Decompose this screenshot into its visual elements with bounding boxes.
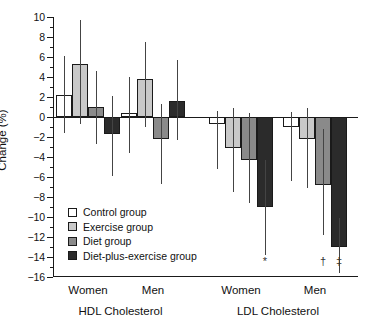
y-axis-tick-major [47,77,53,78]
legend-item: Diet-plus-exercise group [68,249,197,264]
y-axis-tick-major [47,117,53,118]
legend-swatch-icon [68,222,77,231]
error-bar [265,160,266,255]
legend-swatch-icon [68,251,77,260]
error-bar [249,113,250,203]
error-bar [112,96,113,176]
y-axis-tick-major [47,17,53,18]
error-bar [161,104,162,184]
significance-marker: * [263,255,267,267]
legend-item: Control group [68,205,197,220]
error-bar [80,20,81,124]
y-axis-tick-label: −4 [33,151,45,163]
y-axis-tick-label: −10 [27,211,45,223]
y-axis-tick-major [47,197,53,198]
legend-swatch-icon [68,208,77,217]
y-axis-tick-major [47,237,53,238]
error-bar [323,129,324,235]
legend-item: Exercise group [68,220,197,235]
legend-label: Diet-plus-exercise group [83,251,197,262]
y-axis-tick-label: 0 [39,111,45,123]
y-axis-tick-major [47,277,53,278]
y-axis-tick-major [47,217,53,218]
y-axis-tick-major [47,97,53,98]
legend-swatch-icon [68,237,77,246]
y-axis-tick-minor [50,267,54,268]
error-bar [291,112,292,181]
y-axis-tick-minor [50,47,54,48]
y-axis-tick-minor [50,187,54,188]
y-axis-tick-label: −2 [33,131,45,143]
y-axis-tick-label: −16 [27,271,45,283]
y-axis-tick-label: −14 [27,251,45,263]
x-axis-group-label: Men [142,284,164,296]
y-axis-tick-minor [50,107,54,108]
y-axis-tick-minor [50,247,54,248]
error-bar [217,111,218,169]
y-axis-tick-label: −8 [33,191,45,203]
x-axis-panel-label: LDL Cholesterol [237,305,319,317]
y-axis-tick-major [47,37,53,38]
legend-item: Diet group [68,234,197,249]
y-axis-tick-label: 6 [39,51,45,63]
y-axis-tick-minor [50,227,54,228]
y-axis-tick-label: 4 [39,71,45,83]
y-axis-title: Change (%) [0,109,8,170]
x-axis-group-label: Men [304,284,326,296]
error-bar [233,108,234,192]
legend-label: Diet group [83,236,131,247]
y-axis-tick-major [47,257,53,258]
y-axis-tick-minor [50,147,54,148]
x-axis-panel-label: HDL Cholesterol [79,305,163,317]
significance-marker: † [320,255,326,267]
y-axis-tick-label: −12 [27,231,45,243]
y-axis-tick-label: 2 [39,91,45,103]
y-axis-tick-major [47,137,53,138]
error-bar [145,42,146,127]
error-bar [177,60,178,140]
y-axis-tick-minor [50,207,54,208]
error-bar [64,56,65,133]
y-axis-tick-major [47,157,53,158]
y-axis-tick-label: −6 [33,171,45,183]
y-axis-tick-label: 10 [34,11,45,23]
x-axis-group-label: Women [221,284,260,296]
y-axis-tick-major [47,177,53,178]
legend-label: Exercise group [83,222,153,233]
y-axis-tick-minor [50,27,54,28]
y-axis-tick-label: 8 [39,31,45,43]
error-bar [307,108,308,188]
y-axis-tick-minor [50,167,54,168]
legend-label: Control group [83,207,147,218]
y-axis-tick-minor [50,87,54,88]
chart-legend: Control groupExercise groupDiet groupDie… [68,205,197,263]
y-axis-tick-major [47,57,53,58]
chart-figure: Change (%) −16−14−12−10−8−6−4−20246810 *… [0,0,365,326]
y-axis-tick-minor [50,127,54,128]
x-axis-group-label: Women [68,284,107,296]
error-bar [96,71,97,144]
significance-marker: ‡ [336,255,342,267]
error-bar [129,77,130,153]
y-axis-tick-minor [50,67,54,68]
